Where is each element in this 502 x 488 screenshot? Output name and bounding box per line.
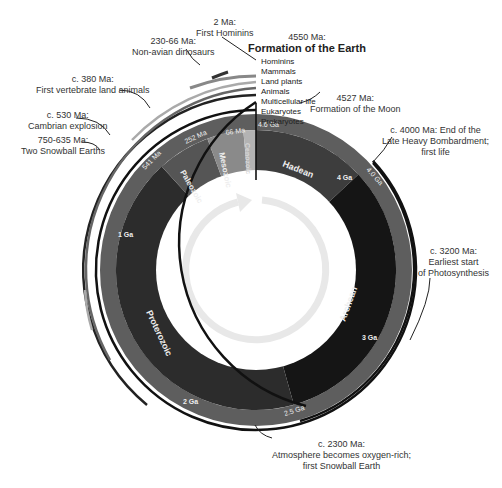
event-moon: 4527 Ma: Formation of the Moon [310, 93, 401, 115]
event-text: first life [382, 147, 489, 158]
life-list-item: Animals [261, 87, 316, 97]
event-time: 230-66 Ma: [132, 36, 215, 47]
inner-label: 2 Ga [183, 398, 198, 405]
event-earth: 4550 Ma: Formation of the Earth [248, 32, 366, 54]
event-time: c. 4000 Ma: End of the [382, 125, 489, 136]
event-text: Late Heavy Bombardment; [382, 136, 489, 147]
event-text: Cambrian explosion [28, 121, 108, 132]
event-land-animals: c. 380 Ma: First vertebrate land animals [36, 74, 150, 96]
inner-label: 4 Ga [337, 174, 352, 181]
event-text: First vertebrate land animals [36, 85, 150, 96]
event-time: c. 380 Ma: [36, 74, 150, 85]
event-photosynthesis: c. 3200 Ma: Earliest start of Photosynth… [418, 246, 489, 279]
era-label-cenozoic: Cenozoic [244, 143, 252, 174]
event-cambrian: c. 530 Ma: Cambrian explosion [28, 110, 108, 132]
event-time: 750-635 Ma: [21, 135, 105, 146]
life-list-item: Hominins [261, 57, 316, 67]
life-list-item: Multicellular life [261, 97, 316, 107]
life-list: Hominins Mammals Land plants Animals Mul… [261, 57, 316, 127]
event-time: c. 530 Ma: [28, 110, 108, 121]
life-list-item: Eukaryotes [261, 107, 316, 117]
event-lhb: c. 4000 Ma: End of the Late Heavy Bombar… [382, 125, 489, 158]
event-oxygen: c. 2300 Ma: Atmosphere becomes oxygen-ri… [272, 439, 411, 472]
event-time: 2 Ma: [196, 17, 254, 28]
event-text: of Photosynthesis [418, 268, 489, 279]
inner-label: 3 Ga [362, 334, 377, 341]
event-time: 4527 Ma: [310, 93, 401, 104]
event-time: c. 2300 Ma: [272, 439, 411, 450]
event-snowball: 750-635 Ma: Two Snowball Earths [21, 135, 105, 157]
event-text: Non-avian dinosaurs [132, 47, 215, 58]
event-text: Atmosphere becomes oxygen-rich; [272, 450, 411, 461]
life-list-item: Land plants [261, 77, 316, 87]
life-list-item: Mammals [261, 67, 316, 77]
event-text: Earliest start [418, 257, 489, 268]
event-text: Formation of the Moon [310, 104, 401, 115]
event-text: first Snowball Earth [272, 461, 411, 472]
event-text: Formation of the Earth [248, 43, 366, 54]
event-time: c. 3200 Ma: [418, 246, 489, 257]
event-text: Two Snowball Earths [21, 146, 105, 157]
inner-label: 1 Ga [118, 231, 133, 238]
life-list-item: Prokaryotes [261, 117, 316, 127]
event-dinosaurs: 230-66 Ma: Non-avian dinosaurs [132, 36, 215, 58]
